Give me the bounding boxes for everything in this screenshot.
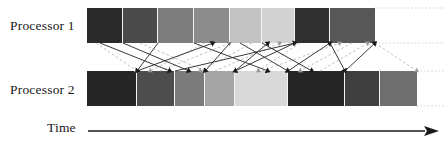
message-arrow bbox=[235, 43, 295, 71]
message-arrow bbox=[235, 43, 268, 71]
dashed-message-line bbox=[300, 43, 352, 71]
figure-canvas: Processor 1 Processor 2 Time bbox=[0, 0, 446, 153]
dashed-message-line bbox=[140, 43, 205, 71]
message-arrow bbox=[137, 43, 213, 71]
dashed-message-line bbox=[96, 43, 137, 71]
message-arrow bbox=[330, 43, 345, 71]
message-arrow bbox=[345, 43, 375, 71]
message-arrow bbox=[194, 43, 268, 71]
guide-lines-group bbox=[375, 8, 444, 106]
dashed-message-line bbox=[375, 43, 417, 71]
message-arrow bbox=[100, 43, 170, 71]
message-arrow bbox=[175, 43, 295, 71]
dashed-message-line bbox=[150, 43, 205, 71]
solid-message-arrows-group bbox=[100, 43, 375, 71]
dashed-message-line bbox=[262, 43, 340, 71]
message-arrow bbox=[123, 43, 189, 71]
message-arrow-overlay bbox=[0, 0, 446, 153]
